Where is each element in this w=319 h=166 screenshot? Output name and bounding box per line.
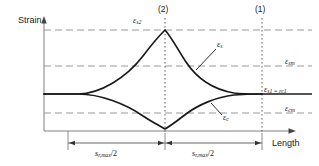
x-axis-label: Length <box>272 139 300 148</box>
curve-epsilon-c <box>44 94 262 129</box>
dimension-label-left-subscript: r,max <box>98 152 111 158</box>
dim-arrowhead-left-start <box>69 141 75 146</box>
section-marker-group <box>165 18 262 133</box>
level-label-eps-sm-subscript: sm <box>288 60 294 66</box>
dim-arrowhead-right-start <box>166 141 172 146</box>
level-label-eps-sm: εsm <box>285 58 295 67</box>
level-label-eps-cm: εcm <box>285 105 295 114</box>
dimension-label-left: sr,max/2 <box>95 150 117 159</box>
dimension-label-left-tail: /2 <box>111 149 117 158</box>
y-axis-label: Strain <box>18 16 42 25</box>
y-axis-arrowhead <box>41 16 46 24</box>
section-marker-label-2: (2) <box>158 5 168 14</box>
curve-label-epsilon-s-subscript: s <box>220 43 222 49</box>
curve-label-epsilon-c-subscript: c <box>226 116 229 122</box>
leader-line-epsilon-s <box>196 49 216 70</box>
x-axis-arrowhead <box>289 128 297 133</box>
curve-epsilon-s <box>44 30 262 94</box>
level-label-eps-s2: εs2 <box>133 17 141 26</box>
level-label-eps-cm-subscript: cm <box>288 107 295 113</box>
dimension-label-right: sr,max/2 <box>192 150 214 159</box>
curve-label-epsilon-c: εc <box>223 114 229 123</box>
dim-arrowhead-left-end <box>158 141 164 146</box>
curve-label-epsilon-s: εs <box>217 41 222 50</box>
section-marker-label-1: (1) <box>255 5 265 14</box>
level-label-eps-s2-subscript: s2 <box>136 19 141 25</box>
dimension-group <box>68 131 262 150</box>
reference-level-group <box>44 30 312 113</box>
dimension-label-right-tail: /2 <box>208 149 214 158</box>
strain-length-diagram: Strain Length (2) (1) εs2 εsm εs1 = εc1 … <box>0 0 319 166</box>
level-label-eps-s1-c1: εs1 = εc1 <box>264 86 287 95</box>
dimension-label-right-subscript: r,max <box>195 152 208 158</box>
dim-arrowhead-right-end <box>255 141 261 146</box>
level-label-eps-s1-c1-subscript: s1 = εc1 <box>267 88 287 94</box>
